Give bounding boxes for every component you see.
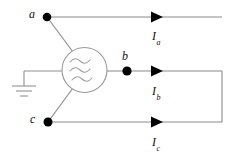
node-dot-a	[43, 13, 52, 22]
current-label-ia: Ia	[152, 30, 160, 45]
arrow-head-ib	[151, 66, 163, 77]
node-label-a: a	[29, 8, 35, 20]
current-symbol-ib: I	[152, 84, 156, 98]
current-label-ic: Ic	[152, 136, 160, 151]
circuit-schematic-canvas	[0, 0, 236, 161]
node-label-b: b	[122, 50, 128, 62]
current-subscript-ib: b	[157, 93, 161, 102]
current-label-ib: Ib	[152, 85, 160, 100]
current-symbol-ic: I	[152, 135, 156, 149]
ac-source-circle	[62, 48, 107, 93]
current-subscript-ia: a	[157, 38, 161, 47]
lead-source-to-a	[47, 17, 73, 52]
node-dot-b	[122, 66, 131, 75]
node-dot-c	[44, 118, 53, 127]
current-subscript-ic: c	[157, 144, 161, 153]
node-label-c: c	[30, 113, 35, 125]
circuit-diagram: a b c Ia Ib Ic	[0, 0, 236, 161]
lead-source-to-c	[48, 88, 73, 122]
arrow-head-ia	[151, 12, 163, 23]
current-symbol-ia: I	[152, 29, 156, 43]
arrow-head-ic	[151, 117, 163, 128]
